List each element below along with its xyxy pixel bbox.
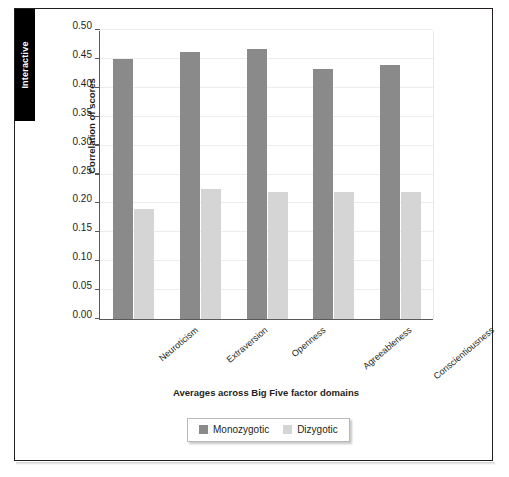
bar-dizygotic-openness[interactable]: [268, 192, 288, 319]
bar-dizygotic-neuroticism[interactable]: [134, 209, 154, 319]
y-axis-tick: [95, 231, 100, 232]
y-axis-tick: [95, 116, 100, 117]
gridline: [100, 29, 433, 30]
chart-legend[interactable]: MonozygoticDizygotic: [187, 418, 350, 442]
x-axis-tick-label: Openness: [290, 325, 328, 359]
x-axis-tick-label: Agreeableness: [361, 325, 413, 371]
bar-group: [247, 31, 288, 319]
bar-dizygotic-conscientiousness[interactable]: [401, 192, 421, 319]
y-axis-tick-label: 0.45: [73, 48, 92, 59]
plot-right-edge: [433, 31, 434, 319]
bar-monozygotic-conscientiousness[interactable]: [380, 65, 400, 319]
y-axis-tick: [95, 29, 100, 30]
bar-monozygotic-openness[interactable]: [247, 49, 267, 320]
y-axis-tick: [95, 260, 100, 261]
y-axis-tick-label: 0.40: [73, 77, 92, 88]
y-axis-tick: [95, 318, 100, 319]
legend-item-dizygotic[interactable]: Dizygotic: [283, 424, 338, 435]
y-axis-tick-label: 0.35: [73, 106, 92, 117]
x-axis-tick-label: Neuroticism: [158, 325, 201, 363]
y-axis-tick: [95, 58, 100, 59]
interactive-tab-label: Interactive: [20, 41, 30, 88]
bar-dizygotic-agreeableness[interactable]: [334, 192, 354, 319]
legend-label: Dizygotic: [297, 424, 338, 435]
legend-item-monozygotic[interactable]: Monozygotic: [199, 424, 269, 435]
plot-area: 0.500.450.400.350.300.250.200.150.100.05…: [99, 31, 433, 320]
y-axis-tick: [95, 202, 100, 203]
interactive-tab[interactable]: Interactive: [15, 9, 35, 121]
y-axis-tick: [95, 144, 100, 145]
x-axis-title: Averages across Big Five factor domains: [99, 387, 433, 398]
legend-label: Monozygotic: [213, 424, 269, 435]
x-axis-tick-label: Extraversion: [225, 325, 270, 365]
y-axis-tick-label: 0.00: [73, 309, 92, 320]
y-axis-tick: [95, 289, 100, 290]
bar-monozygotic-neuroticism[interactable]: [113, 59, 133, 319]
y-axis-tick-label: 0.10: [73, 251, 92, 262]
bar-dizygotic-extraversion[interactable]: [201, 189, 221, 319]
x-axis-tick-label: Conscientiousness: [431, 325, 495, 381]
y-axis-tick-label: 0.20: [73, 193, 92, 204]
bar-group: [180, 31, 221, 319]
page-shadow: [16, 462, 495, 465]
bar-monozygotic-extraversion[interactable]: [180, 52, 200, 319]
y-axis-tick-label: 0.25: [73, 164, 92, 175]
bar-monozygotic-agreeableness[interactable]: [313, 69, 333, 319]
y-axis-tick: [95, 173, 100, 174]
y-axis-tick-label: 0.05: [73, 280, 92, 291]
bar-group: [380, 31, 421, 319]
bar-group: [113, 31, 154, 319]
bar-group: [313, 31, 354, 319]
chart-figure: Correlation of scores 0.500.450.400.350.…: [35, 9, 492, 460]
legend-swatch-dizygotic: [283, 425, 292, 434]
y-axis-tick-label: 0.50: [73, 20, 92, 31]
legend-swatch-monozygotic: [199, 425, 208, 434]
y-axis-tick-label: 0.15: [73, 222, 92, 233]
y-axis-tick-label: 0.30: [73, 135, 92, 146]
y-axis-tick: [95, 87, 100, 88]
